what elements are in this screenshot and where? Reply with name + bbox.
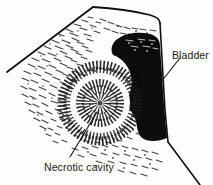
hypoechoic-mass-with-necrotic-cavity	[62, 65, 138, 141]
ultrasound-scan-drawing	[0, 0, 213, 185]
bladder-label: Bladder	[172, 49, 209, 61]
ultrasound-figure: Bladder Necrotic cavity	[0, 0, 213, 185]
bladder-leader-line	[161, 58, 180, 82]
necrotic-cavity-label: Necrotic cavity	[44, 161, 114, 173]
tissue-speckle-texture	[21, 17, 167, 176]
